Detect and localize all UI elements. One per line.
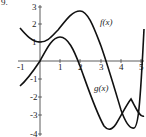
label-f: f(x) — [100, 17, 113, 27]
y-tick-label: -3 — [30, 110, 38, 120]
y-tick-label: -1 — [30, 74, 38, 84]
x-tick-label: 1 — [58, 62, 63, 72]
y-tick-label: 3 — [32, 2, 37, 12]
x-tick-label: 3 — [99, 62, 104, 72]
series-g — [20, 37, 144, 129]
y-tick-label: 2 — [32, 19, 37, 29]
x-tick-label: 4 — [119, 62, 124, 72]
x-tick-label: -1 — [17, 62, 25, 72]
y-tick-label: -4 — [30, 129, 38, 137]
chart: -1 1 2 3 4 5 3 2 1 -1 -2 -3 -4 f(x) g(x) — [0, 0, 146, 137]
y-tick-label: -2 — [30, 92, 38, 102]
label-g: g(x) — [94, 83, 109, 93]
